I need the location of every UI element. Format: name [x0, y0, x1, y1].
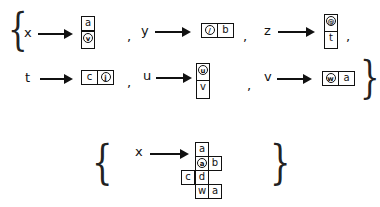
var-v: v — [264, 70, 272, 84]
arrow-icon — [156, 77, 190, 79]
arrow-icon — [150, 153, 187, 155]
grid-cell-circled: a — [195, 156, 209, 171]
cell-label: a — [199, 143, 205, 154]
cell-label: a — [85, 17, 91, 28]
circled-label: u — [198, 65, 208, 75]
var-y: y — [141, 24, 149, 38]
cell-label: c — [185, 171, 191, 182]
cell-label: b — [222, 24, 228, 35]
set1-close-brace: } — [360, 52, 380, 103]
cell-circled: j — [97, 70, 114, 85]
cell-circled: u — [196, 63, 210, 81]
cell-circled: v — [81, 31, 95, 49]
cell: a — [81, 16, 95, 31]
var-t: t — [25, 71, 30, 85]
separator: , — [127, 76, 131, 90]
cell: c — [81, 70, 98, 85]
cell-label: w — [198, 185, 206, 196]
set2-close-brace: } — [270, 135, 290, 189]
grid-cell: b — [208, 156, 222, 171]
cell-circled: @ — [324, 14, 338, 32]
separator: , — [247, 79, 251, 93]
grid-cell: d — [195, 170, 209, 185]
cell-circled: w — [322, 71, 339, 86]
grid-cell: a — [195, 142, 209, 157]
cell-label: d — [199, 171, 205, 182]
cell: t — [324, 31, 338, 49]
cell: b — [217, 23, 234, 38]
grid-cell: a — [208, 184, 222, 199]
circled-label: @ — [326, 16, 336, 26]
cell-label: a — [212, 185, 218, 196]
arrow-icon — [278, 31, 313, 33]
arrow-icon — [40, 78, 71, 80]
grid-cell: c — [181, 170, 195, 185]
grid-cell: w — [195, 184, 209, 199]
cell: a — [338, 71, 355, 86]
cell-circled: / — [201, 23, 218, 38]
cell: v — [196, 80, 210, 99]
arrow-icon — [155, 31, 189, 33]
separator: , — [346, 30, 350, 44]
var-z: z — [264, 24, 271, 38]
cell-label: c — [87, 71, 93, 82]
arrow-icon — [277, 78, 310, 80]
circled-label: v — [83, 33, 93, 43]
set2-open-brace: { — [92, 135, 112, 189]
var-u: u — [143, 69, 151, 83]
circled-label: / — [205, 25, 215, 35]
var-x: x — [135, 145, 143, 159]
circled-label: w — [326, 73, 336, 83]
separator: , — [243, 30, 247, 44]
cell-label: t — [329, 32, 333, 43]
arrow-icon — [38, 33, 71, 35]
circled-label: a — [197, 158, 207, 168]
cell-label: v — [200, 81, 206, 92]
var-x: x — [24, 26, 32, 40]
cell-label: b — [212, 157, 218, 168]
circled-label: j — [101, 72, 111, 82]
cell-label: a — [343, 72, 349, 83]
separator: , — [127, 30, 131, 44]
